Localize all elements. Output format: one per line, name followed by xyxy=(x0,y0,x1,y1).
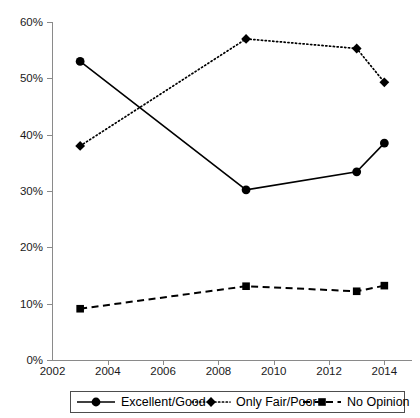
x-axis-tick-label: 2006 xyxy=(150,365,176,377)
data-point-square xyxy=(242,282,250,290)
legend-marker-square xyxy=(318,398,326,406)
legend-label: No Opinion xyxy=(347,395,410,409)
x-axis-tick-label: 2012 xyxy=(316,365,342,377)
legend-marker-circle xyxy=(92,398,101,407)
series-line-excellent-good xyxy=(80,61,384,189)
data-point-diamond xyxy=(75,141,85,151)
data-point-diamond xyxy=(241,34,251,44)
y-axis-tick-label: 40% xyxy=(20,129,43,141)
y-axis-tick-labels: 0%10%20%30%40%50%60% xyxy=(20,16,43,366)
series-line-only-fair-poor xyxy=(80,39,384,146)
line-chart: 0%10%20%30%40%50%60% 2002200420062008201… xyxy=(0,0,420,418)
x-axis-tick-label: 2008 xyxy=(206,365,232,377)
y-axis-tick-label: 60% xyxy=(20,16,43,28)
chart-legend: Excellent/GoodOnly Fair/PoorNo Opinion xyxy=(71,392,410,413)
data-point-square xyxy=(381,282,389,290)
x-axis-tick-label: 2014 xyxy=(372,365,398,377)
y-axis-tick-label: 20% xyxy=(20,241,43,253)
y-axis-tick-label: 10% xyxy=(20,298,43,310)
series-markers-group xyxy=(75,34,389,313)
series-lines-group xyxy=(80,39,384,309)
chart-container: 0%10%20%30%40%50%60% 2002200420062008201… xyxy=(0,0,420,418)
x-axis-tick-labels: 2002200420062008201020122014 xyxy=(40,365,398,377)
data-point-circle xyxy=(76,57,85,66)
x-axis-tick-label: 2004 xyxy=(95,365,121,377)
data-point-circle xyxy=(242,185,251,194)
x-axis-tick-label: 2010 xyxy=(261,365,287,377)
y-axis-tick-marks xyxy=(47,23,53,361)
y-axis-tick-label: 30% xyxy=(20,185,43,197)
y-axis-tick-label: 50% xyxy=(20,72,43,84)
data-point-circle xyxy=(380,139,389,148)
series-line-no-opinion xyxy=(80,286,384,309)
legend-entries: Excellent/GoodOnly Fair/PoorNo Opinion xyxy=(77,395,410,409)
x-axis-tick-label: 2002 xyxy=(40,365,66,377)
data-point-circle xyxy=(352,167,361,176)
data-point-square xyxy=(76,305,84,313)
data-point-square xyxy=(353,287,361,295)
